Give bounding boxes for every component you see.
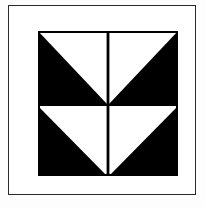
figure-frame-border (8, 5, 196, 195)
square-left-edge (38, 31, 40, 176)
figure-caption (8, 197, 196, 207)
motif-canvas (38, 31, 178, 176)
center-vertical-divider (107, 31, 110, 176)
figure-root (0, 0, 205, 207)
square-bottom-edge (38, 174, 178, 176)
square-right-edge (176, 31, 178, 176)
square-top-edge (38, 31, 178, 33)
motif-svg (38, 31, 178, 176)
